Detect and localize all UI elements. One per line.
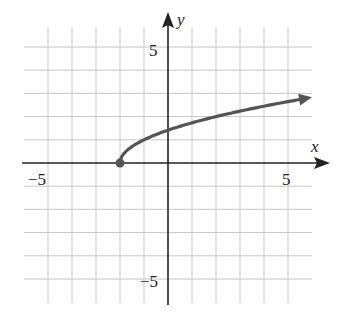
- x-tick-5: 5: [282, 170, 291, 189]
- curve-arrow-icon: [298, 94, 312, 106]
- y-tick-5: 5: [149, 41, 158, 60]
- function-graph: y x 5 −5 −5 5: [0, 0, 342, 329]
- axes: [22, 12, 330, 305]
- y-tick-neg5: −5: [140, 272, 158, 291]
- sqrt-curve: [120, 98, 306, 163]
- start-point-marker: [116, 159, 125, 168]
- x-tick-neg5: −5: [28, 170, 46, 189]
- y-axis-label: y: [175, 10, 185, 29]
- x-axis-label: x: [310, 137, 319, 156]
